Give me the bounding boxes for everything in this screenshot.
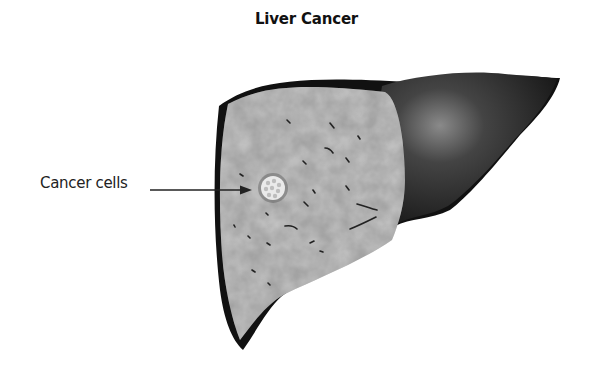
liver-illustration [0,0,613,383]
tumor-nodule [258,173,288,203]
liver-right-lobe [377,73,557,225]
